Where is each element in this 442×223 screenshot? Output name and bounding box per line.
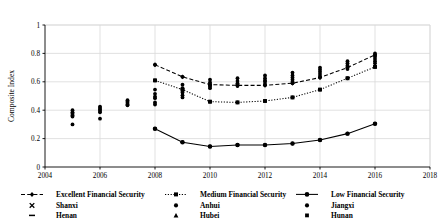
scatter-point [153,96,157,100]
legend-excellent-financial-security-marker [30,192,34,197]
x-axis-tick-label-2006: 2006 [93,172,108,180]
legend-hubei-marker [174,213,179,218]
series-marker-medium-financial-security [373,65,377,69]
scatter-point [126,103,130,107]
series-marker-medium-financial-security [208,100,212,104]
series-marker-low-financial-security [290,141,294,145]
y-axis-tick-label-0.6: 0.6 [31,78,40,86]
financial-security-line-chart: 00.20.40.60.8120042006200820102012201420… [0,0,442,223]
scatter-point [98,117,102,121]
scatter-point [153,88,157,92]
series-marker-low-financial-security [235,143,239,147]
legend-medium-financial-security-marker [174,192,178,196]
legend-jiangxi-marker [305,203,309,207]
scatter-point [71,123,75,127]
scatter-point [181,83,185,87]
scatter-point [181,96,185,100]
scatter-point [98,110,102,114]
scatter-point [71,115,75,119]
series-marker-medium-financial-security [318,88,322,92]
legend-shanxi-label: Shanxi [56,201,78,210]
series-marker-medium-financial-security [181,88,185,92]
legend-hunan-label: Hunan [331,211,353,220]
y-axis-tick-label-0.4: 0.4 [31,107,40,115]
legend-medium-financial-security-label: Medium Financial Security [200,190,287,199]
legend-jiangxi-label: Jiangxi [331,201,354,210]
scatter-point [153,103,157,107]
y-axis-title: Composite Index [7,70,16,122]
series-marker-low-financial-security [208,144,212,148]
series-marker-medium-financial-security [346,76,350,80]
series-marker-low-financial-security [180,140,184,144]
y-axis-tick-label-1: 1 [36,22,40,30]
series-marker-low-financial-security [345,131,349,135]
x-axis-tick-label-2018: 2018 [423,172,438,180]
series-marker-medium-financial-security [291,95,295,99]
legend-anhui-label: Anhui [200,201,220,210]
legend-low-financial-security-marker [305,192,310,197]
legend-hunan-marker [305,214,309,218]
legend-hubei-label: Hubei [200,211,219,220]
scatter-point [373,61,377,65]
series-marker-low-financial-security [263,143,267,147]
legend-excellent-financial-security-label: Excellent Financial Security [56,190,145,199]
x-axis-tick-label-2012: 2012 [258,172,273,180]
series-marker-medium-financial-security [153,78,157,82]
series-marker-low-financial-security [373,121,377,125]
x-axis-tick-label-2014: 2014 [313,172,328,180]
series-marker-medium-financial-security [263,99,267,103]
series-marker-medium-financial-security [236,100,240,104]
legend-anhui-marker [174,203,178,207]
x-axis-tick-label-2010: 2010 [203,172,218,180]
x-axis-tick-label-2004: 2004 [38,172,53,180]
x-axis-tick-label-2016: 2016 [368,172,383,180]
x-axis-tick-label-2008: 2008 [148,172,163,180]
series-marker-low-financial-security [318,138,322,142]
chart-figure: 00.20.40.60.8120042006200820102012201420… [0,0,442,223]
series-marker-low-financial-security [153,126,157,130]
y-axis-tick-label-0: 0 [36,164,40,172]
y-axis-tick-label-0.2: 0.2 [31,135,40,143]
legend-low-financial-security-label: Low Financial Security [331,190,405,199]
legend-henan-label: Henan [56,211,77,220]
y-axis-tick-label-0.8: 0.8 [31,50,40,58]
